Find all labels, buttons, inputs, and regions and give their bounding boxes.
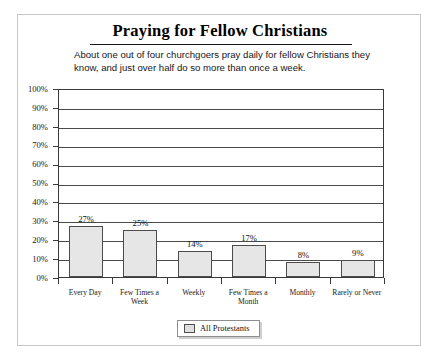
bar[interactable] <box>178 251 212 277</box>
y-axis-tick-mark <box>53 240 58 241</box>
bar-value-label: 27% <box>78 214 94 224</box>
bar-value-label: 9% <box>352 248 363 258</box>
x-axis-tick-label: Monthly <box>275 288 329 297</box>
x-axis-tick-label-line: Month <box>221 297 275 306</box>
bar[interactable] <box>69 226 103 277</box>
x-axis-tick-label-line: Monthly <box>275 288 329 297</box>
x-axis-tick-mark <box>112 278 113 284</box>
y-axis-tick-label: 70% <box>14 141 48 150</box>
bar-value-label: 25% <box>133 218 149 228</box>
bar-slot: 9% <box>331 90 385 277</box>
bar[interactable] <box>341 260 375 277</box>
x-axis-tick-label: Few Times aWeek <box>112 288 166 306</box>
bar[interactable] <box>286 262 320 277</box>
bar[interactable] <box>232 245 266 277</box>
x-axis-tick-label: Rarely or Never <box>330 288 384 297</box>
y-axis-tick-label: 10% <box>14 255 48 264</box>
bar[interactable] <box>123 230 157 277</box>
bar-slot: 14% <box>168 90 222 277</box>
chart-legend: All Protestants <box>177 320 260 337</box>
x-axis-tick-label: Weekly <box>167 288 221 297</box>
bar-value-label: 17% <box>241 233 257 243</box>
bar-slot: 25% <box>113 90 167 277</box>
legend-label-all-protestants: All Protestants <box>200 324 250 333</box>
y-axis-tick-label: 100% <box>14 85 48 94</box>
x-axis-tick-mark <box>221 278 222 284</box>
plot-area: 27%25%14%17%8%9% <box>58 89 384 278</box>
y-axis-tick-mark <box>53 165 58 166</box>
y-axis-tick-label: 90% <box>14 104 48 113</box>
bar-slot: 8% <box>276 90 330 277</box>
y-axis-tick-mark <box>53 184 58 185</box>
y-axis-tick-label: 40% <box>14 198 48 207</box>
x-axis-tick-mark <box>167 278 168 284</box>
x-axis-tick-mark <box>275 278 276 284</box>
x-axis-tick-label: Every Day <box>58 288 112 297</box>
bar-value-label: 8% <box>298 250 309 260</box>
y-axis-tick-mark <box>53 89 58 90</box>
x-axis-tick-label-line: Every Day <box>58 288 112 297</box>
page-title: Praying for Fellow Christians <box>38 21 402 41</box>
x-axis-tick-mark <box>384 278 385 284</box>
x-axis-tick-mark <box>330 278 331 284</box>
x-axis-tick-label-line: Few Times a <box>221 288 275 297</box>
legend-swatch-all-protestants <box>184 324 195 333</box>
y-axis-tick-label: 0% <box>14 274 48 283</box>
x-axis-tick-label-line: Few Times a <box>112 288 166 297</box>
chart-figure-frame: Praying for Fellow Christians About one … <box>17 14 421 346</box>
y-axis-tick-label: 20% <box>14 236 48 245</box>
bar-slot: 27% <box>59 90 113 277</box>
x-axis-tick-label: Few Times aMonth <box>221 288 275 306</box>
x-axis-tick-label-line: Week <box>112 297 166 306</box>
chart-subtitle: About one out of four churchgoers pray d… <box>74 48 390 74</box>
y-axis-tick-mark <box>53 259 58 260</box>
bars-layer: 27%25%14%17%8%9% <box>59 90 383 277</box>
y-axis-tick-label: 80% <box>14 123 48 132</box>
y-axis-tick-mark <box>53 146 58 147</box>
x-axis-tick-mark <box>58 278 59 284</box>
x-axis-tick-label-line: Weekly <box>167 288 221 297</box>
y-axis-tick-label: 30% <box>14 217 48 226</box>
y-axis-tick-mark <box>53 127 58 128</box>
y-axis-tick-label: 50% <box>14 179 48 188</box>
y-axis-tick-label: 60% <box>14 160 48 169</box>
x-axis-tick-label-line: Rarely or Never <box>330 288 384 297</box>
y-axis-tick-mark <box>53 108 58 109</box>
title-underline-rule <box>90 44 352 45</box>
y-axis-tick-mark <box>53 202 58 203</box>
bar-value-label: 14% <box>187 239 203 249</box>
y-axis-tick-mark <box>53 221 58 222</box>
bar-slot: 17% <box>222 90 276 277</box>
